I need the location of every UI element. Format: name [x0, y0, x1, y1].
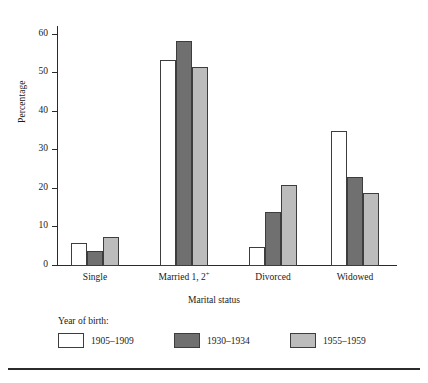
- legend-label: 1955–1959: [323, 336, 366, 346]
- bar: [71, 243, 87, 266]
- bar: [347, 177, 363, 266]
- x-axis-label: Single: [45, 272, 145, 282]
- bars-layer: [0, 0, 428, 266]
- bar: [176, 41, 192, 267]
- bar: [87, 251, 103, 266]
- bar: [192, 67, 208, 266]
- legend-title: Year of birth:: [58, 316, 398, 326]
- legend-items: 1905–19091930–19341955–1959: [58, 333, 398, 353]
- legend-item: 1955–1959: [290, 333, 366, 348]
- legend: Year of birth: 1905–19091930–19341955–19…: [58, 316, 398, 353]
- bar: [249, 247, 265, 266]
- legend-item: 1905–1909: [58, 333, 134, 348]
- legend-label: 1905–1909: [91, 336, 134, 346]
- plot-area: Percentage 0102030405060 SingleMarried 1…: [0, 0, 428, 300]
- figure: Percentage 0102030405060 SingleMarried 1…: [0, 0, 428, 383]
- x-axis-label: Widowed: [305, 272, 405, 282]
- x-axis-label: Married 1, 2+: [134, 272, 234, 282]
- bar: [363, 193, 379, 266]
- bar: [103, 237, 119, 266]
- legend-label: 1930–1934: [207, 336, 250, 346]
- legend-swatch: [290, 333, 316, 348]
- footer-divider: [8, 368, 420, 370]
- bar: [281, 185, 297, 266]
- bar: [331, 131, 347, 266]
- bar: [160, 60, 176, 266]
- legend-swatch: [58, 333, 84, 348]
- x-axis-title: Marital status: [0, 295, 428, 305]
- bar: [265, 212, 281, 266]
- legend-swatch: [174, 333, 200, 348]
- legend-item: 1930–1934: [174, 333, 250, 348]
